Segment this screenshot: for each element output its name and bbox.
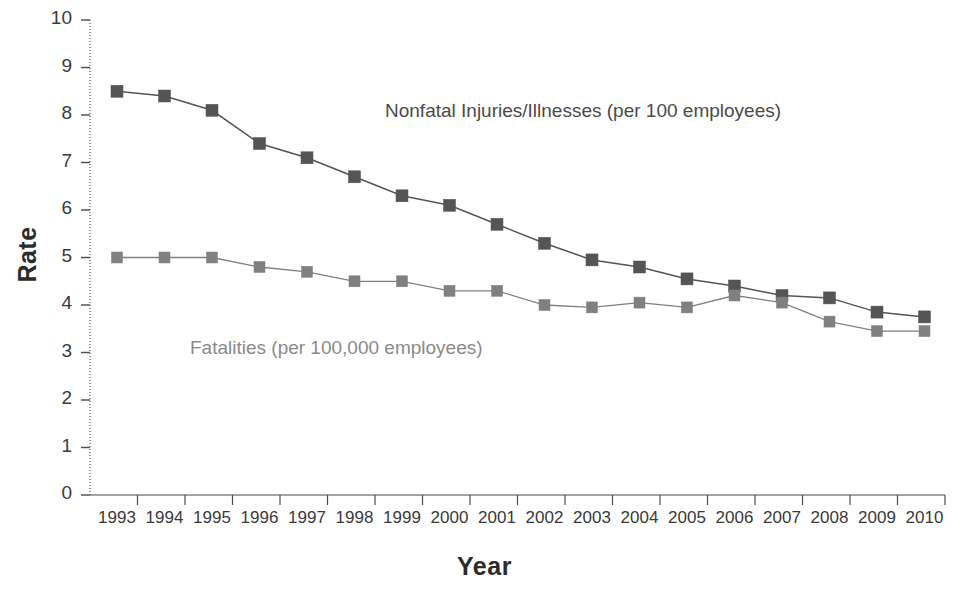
data-point-marker <box>634 261 646 273</box>
data-point-marker <box>397 276 408 287</box>
data-point-marker <box>586 254 598 266</box>
data-point-marker <box>634 297 645 308</box>
y-tick-label: 10 <box>32 7 72 29</box>
data-point-marker <box>777 297 788 308</box>
data-point-marker <box>919 311 931 323</box>
y-tick-label: 4 <box>32 292 72 314</box>
y-tick-label: 8 <box>32 102 72 124</box>
data-point-marker <box>444 285 455 296</box>
data-point-marker <box>729 290 740 301</box>
data-point-marker <box>159 252 170 263</box>
data-point-marker <box>824 292 836 304</box>
y-tick-label: 9 <box>32 55 72 77</box>
data-point-marker <box>539 237 551 249</box>
y-tick-label: 7 <box>32 150 72 172</box>
data-point-marker <box>824 316 835 327</box>
data-point-marker <box>919 326 930 337</box>
data-point-marker <box>681 273 693 285</box>
y-tick-label: 0 <box>32 482 72 504</box>
y-tick-label: 6 <box>32 197 72 219</box>
data-point-marker <box>159 90 171 102</box>
data-point-marker <box>396 190 408 202</box>
data-point-marker <box>349 171 361 183</box>
data-point-marker <box>539 300 550 311</box>
data-point-marker <box>349 276 360 287</box>
y-tick-label: 5 <box>32 245 72 267</box>
chart-container: Rate Year Nonfatal Injuries/Illnesses (p… <box>0 0 969 601</box>
y-tick-label: 3 <box>32 340 72 362</box>
x-tick-label: 2010 <box>895 508 955 528</box>
data-point-marker <box>871 306 883 318</box>
data-point-marker <box>872 326 883 337</box>
y-tick-label: 2 <box>32 387 72 409</box>
data-point-marker <box>301 152 313 164</box>
data-point-marker <box>207 252 218 263</box>
data-point-marker <box>492 285 503 296</box>
data-point-marker <box>682 302 693 313</box>
y-tick-label: 1 <box>32 435 72 457</box>
series-line-nonfatal <box>117 91 925 317</box>
data-point-marker <box>206 104 218 116</box>
data-point-marker <box>112 252 123 263</box>
data-point-marker <box>302 266 313 277</box>
data-point-marker <box>444 199 456 211</box>
data-point-marker <box>587 302 598 313</box>
data-point-marker <box>491 218 503 230</box>
series-line-fatalities <box>117 258 925 332</box>
data-point-marker <box>254 138 266 150</box>
data-point-marker <box>111 85 123 97</box>
data-point-marker <box>254 262 265 273</box>
